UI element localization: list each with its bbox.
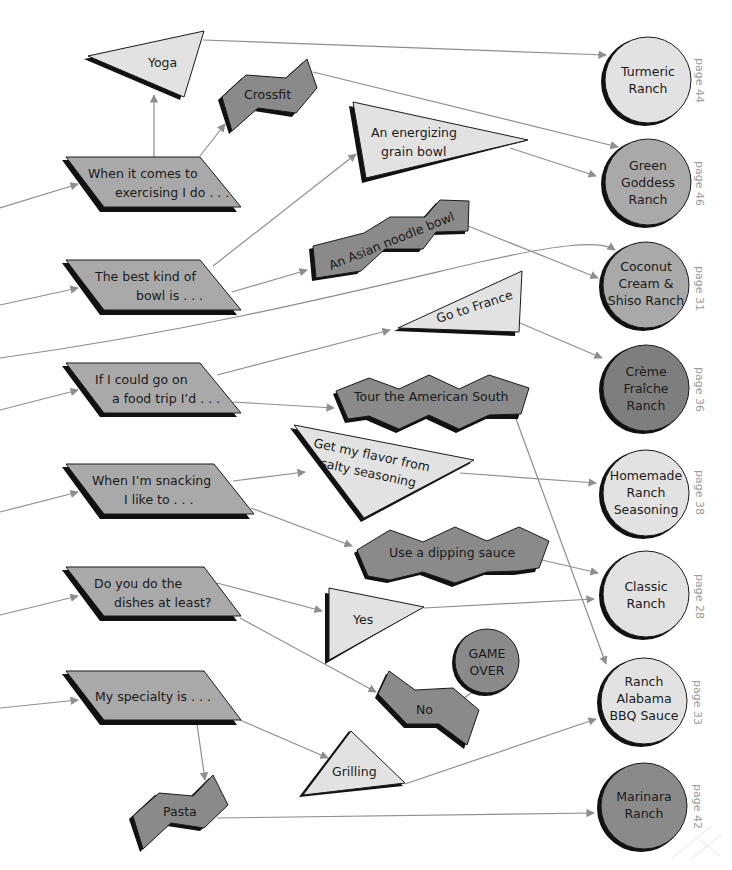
result-creme[interactable]: Crème Fraîche Ranch page 36 [599,345,706,434]
result-homemade-page: page 38 [693,470,706,515]
answer-france[interactable]: Go to France [394,271,522,336]
question-q3-line1: If I could go on [95,372,188,387]
result-green-goddess-line2: Goddess [621,175,675,190]
result-creme-line2: Fraîche [623,381,668,396]
answer-yoga-label: Yoga [147,55,177,70]
edge-q6-pasta [197,724,205,780]
answer-dipping-label: Use a dipping sauce [389,545,516,560]
edge-in-q4 [0,492,78,512]
edge-q2-noodle [232,270,307,292]
answer-yes-label: Yes [352,612,373,627]
edge-dipping-classic [542,560,598,573]
edge-in-q2 [0,288,78,305]
answer-crossfit[interactable]: Crossfit [218,59,317,134]
result-creme-page: page 36 [693,367,706,412]
result-green-goddess-line3: Ranch [629,192,668,207]
question-q3-line2: a food trip I’d . . . [112,391,220,406]
answer-south[interactable]: Tour the American South [333,375,529,433]
answer-noodle-bowl[interactable]: An Asian noodle bowl [309,200,469,281]
result-classic[interactable]: Classic Ranch page 28 [599,551,706,640]
question-q2-line1: The best kind of [94,269,196,284]
result-classic-line1: Classic [624,579,667,594]
result-alabama[interactable]: Ranch Alabama BBQ Sauce page 33 [597,658,704,747]
answer-grain-bowl-line2: grain bowl [381,144,446,159]
result-marinara[interactable]: Marinara Ranch page 42 [597,763,704,852]
question-q6-line1: My specialty is . . . [95,689,211,704]
answer-pasta[interactable]: Pasta [129,775,228,852]
edge-yes-classic [424,599,594,608]
edge-q4-dipping [251,508,352,546]
question-q2-line2: bowl is . . . [136,288,203,303]
result-green-goddess-page: page 46 [693,161,706,206]
result-homemade-line2: Ranch [627,485,666,500]
answer-grilling[interactable]: Grilling [299,731,405,797]
result-classic-page: page 28 [693,574,706,619]
question-q4-line2: I like to . . . [124,492,193,507]
result-homemade[interactable]: Homemade Ranch Seasoning page 38 [599,450,706,539]
game-over[interactable]: GAME OVER [452,629,519,696]
edge-pasta-marinara [217,813,594,818]
result-creme-line1: Crème [625,364,666,379]
result-green-goddess[interactable]: Green Goddess Ranch page 46 [601,139,706,228]
edge-in-q5 [0,596,78,615]
question-q1[interactable]: When it comes to exercising I do . . . [62,157,241,212]
edge-salty-homemade [460,473,596,483]
answer-yoga[interactable]: Yoga [84,31,204,100]
question-q5-line1: Do you do the [94,576,183,591]
answer-grain-bowl-line1: An energizing [371,125,457,140]
result-creme-line3: Ranch [627,398,666,413]
question-q5-line2: dishes at least? [114,595,211,610]
result-coconut[interactable]: Coconut Cream & Shiso Ranch page 31 [599,242,706,331]
edge-noodle-coconut [468,226,598,278]
answer-salty[interactable]: Get my flavor from salty seasoning [290,425,474,522]
result-coconut-line2: Cream & [619,276,674,291]
game-over-line1: GAME [469,646,506,661]
result-homemade-line1: Homemade [610,468,683,483]
edge-q3-south [233,402,334,408]
edge-q1-crossfit [200,124,225,156]
result-homemade-line3: Seasoning [614,502,679,517]
result-marinara-line1: Marinara [616,789,671,804]
answer-dipping[interactable]: Use a dipping sauce [354,527,549,587]
result-coconut-line3: Shiso Ranch [608,293,684,308]
answer-pasta-label: Pasta [163,804,197,819]
result-green-goddess-line1: Green [629,158,667,173]
question-q1-line1: When it comes to [88,166,198,181]
answer-grilling-label: Grilling [332,764,377,779]
result-marinara-page: page 42 [691,784,704,829]
question-q4-line1: When I’m snacking [92,473,211,488]
edge-grilling-alabama [405,719,596,784]
result-turmeric-page: page 44 [693,58,706,103]
question-q2[interactable]: The best kind of bowl is . . . [62,260,241,315]
flowchart-canvas: When it comes to exercising I do . . . T… [0,0,732,870]
question-q1-line2: exercising I do . . . [115,185,229,200]
edge-q3-france [217,330,390,375]
result-classic-line2: Ranch [627,596,666,611]
result-coconut-line1: Coconut [620,259,672,274]
edge-yoga-turmeric [203,40,606,55]
question-q5[interactable]: Do you do the dishes at least? [62,567,241,621]
edge-q4-salty [233,472,305,481]
edge-in-q1 [0,184,78,208]
question-q4[interactable]: When I’m snacking I like to . . . [62,464,254,519]
result-alabama-line3: BBQ Sauce [609,708,678,723]
answer-yes[interactable]: Yes [325,588,424,664]
result-turmeric-line2: Ranch [629,81,668,96]
result-marinara-line2: Ranch [625,806,664,821]
result-alabama-page: page 33 [691,680,704,725]
result-alabama-line1: Ranch [625,674,664,689]
edge-grain-greengoddess [510,148,596,176]
edge-france-creme [520,323,602,358]
answer-grain-bowl[interactable]: An energizing grain bowl [349,102,528,183]
result-turmeric-line1: Turmeric [620,64,675,79]
result-alabama-line2: Alabama [616,691,671,706]
game-over-line2: OVER [470,663,505,678]
answer-south-label: Tour the American South [353,389,508,404]
question-q3[interactable]: If I could go on a food trip I’d . . . [62,363,241,417]
edge-in-q6 [0,700,78,708]
edge-in-q3 [0,390,78,410]
answer-crossfit-label: Crossfit [244,87,291,102]
question-q6[interactable]: My specialty is . . . [62,671,241,725]
result-turmeric[interactable]: Turmeric Ranch page 44 [601,37,706,126]
result-coconut-page: page 31 [693,266,706,311]
